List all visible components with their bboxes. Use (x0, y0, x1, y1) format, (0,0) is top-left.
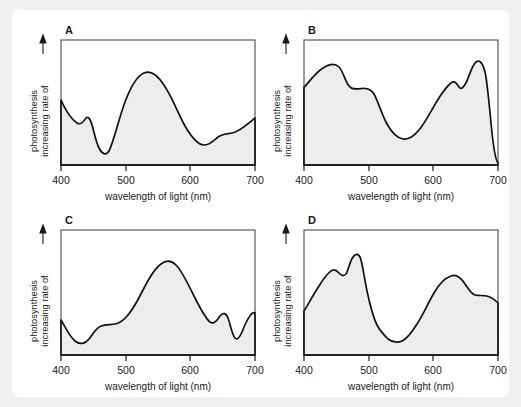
panel-b-xtick-500: 500 (360, 174, 378, 186)
panel-b-letter: B (308, 24, 316, 36)
panel-c-xtick-700: 700 (246, 364, 264, 376)
panel-c-xtick-400: 400 (52, 364, 70, 376)
panel-d-ylabel-line2: photosynthesis (272, 280, 282, 342)
figure-page: A photosynthesis increasing rate of 400 (0, 0, 521, 407)
panel-b-curve (304, 61, 498, 165)
figure-card: A photosynthesis increasing rate of 400 (12, 10, 509, 397)
panel-b-ylabel-line2: photosynthesis (272, 90, 282, 152)
panel-b-xtick-400: 400 (295, 174, 313, 186)
panel-a-y-axis: photosynthesis increasing rate of (29, 35, 50, 157)
panel-a-ylabel-line1: increasing rate of (40, 85, 50, 157)
panel-c-letter: C (65, 214, 73, 226)
panel-c: C photosynthesis increasing rate of 400 (24, 208, 272, 404)
panel-d-ylabel-line1: increasing rate of (283, 275, 293, 347)
panel-d-xtick-700: 700 (489, 364, 507, 376)
panel-d-xtick-600: 600 (424, 364, 442, 376)
panel-b-ylabel-line1: increasing rate of (283, 85, 293, 157)
panel-c-y-axis: photosynthesis increasing rate of (29, 225, 50, 347)
panel-a-x-ticks: 400 500 600 700 (52, 165, 264, 186)
panel-c-ylabel-line1: increasing rate of (40, 275, 50, 347)
panel-b: B photosynthesis increasing rate of 400 (267, 18, 515, 214)
panel-b-xtick-600: 600 (424, 174, 442, 186)
panel-d-xlabel: wavelength of light (nm) (347, 381, 454, 392)
panel-c-xtick-600: 600 (181, 364, 199, 376)
panel-b-svg: B photosynthesis increasing rate of 400 (267, 18, 515, 214)
panel-d-y-axis: photosynthesis increasing rate of (272, 225, 293, 347)
panel-d-xtick-400: 400 (295, 364, 313, 376)
panel-a: A photosynthesis increasing rate of 400 (24, 18, 272, 214)
panel-a-xtick-600: 600 (181, 174, 199, 186)
panel-d-letter: D (308, 214, 316, 226)
panel-c-xlabel: wavelength of light (nm) (104, 381, 211, 392)
panel-d-curve (304, 254, 498, 355)
panel-a-letter: A (65, 24, 73, 36)
panel-a-xlabel: wavelength of light (nm) (104, 191, 211, 202)
panel-a-xtick-700: 700 (246, 174, 264, 186)
panel-a-svg: A photosynthesis increasing rate of 400 (24, 18, 272, 214)
panel-c-xtick-500: 500 (117, 364, 135, 376)
panel-d-x-ticks: 400 500 600 700 (295, 355, 507, 376)
panel-b-x-ticks: 400 500 600 700 (295, 165, 507, 186)
panel-a-xtick-400: 400 (52, 174, 70, 186)
panel-b-y-axis: photosynthesis increasing rate of (272, 35, 293, 157)
panel-c-ylabel-line2: photosynthesis (29, 280, 39, 342)
panel-c-svg: C photosynthesis increasing rate of 400 (24, 208, 272, 404)
panel-a-xtick-500: 500 (117, 174, 135, 186)
panel-a-curve (61, 72, 255, 165)
panel-c-curve (61, 261, 255, 355)
panel-b-xtick-700: 700 (489, 174, 507, 186)
panel-a-ylabel-line2: photosynthesis (29, 90, 39, 152)
panel-c-x-ticks: 400 500 600 700 (52, 355, 264, 376)
panel-d: D photosynthesis increasing rate of 400 (267, 208, 515, 404)
panel-d-svg: D photosynthesis increasing rate of 400 (267, 208, 515, 404)
panel-d-xtick-500: 500 (360, 364, 378, 376)
panel-b-xlabel: wavelength of light (nm) (347, 191, 454, 202)
